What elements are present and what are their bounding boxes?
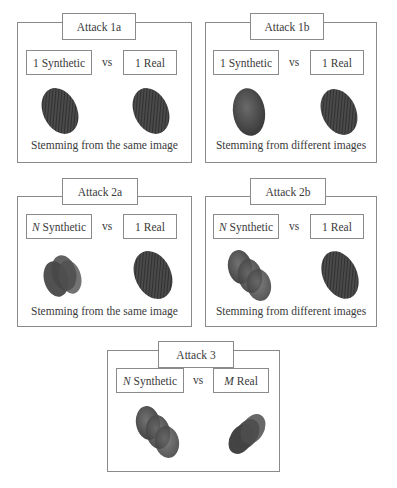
panel-attack-2b: N Synthetic vs 1 Real Stemming from diff…: [205, 196, 377, 327]
synthetic-count: N: [123, 375, 131, 387]
synthetic-count: N: [219, 221, 227, 233]
panel-attack-3: N Synthetic vs M Real: [107, 350, 280, 472]
real-count: 1: [322, 57, 328, 69]
synthetic-text: Synthetic: [134, 375, 177, 387]
synthetic-label: N Synthetic: [26, 214, 92, 239]
vs-text: vs: [102, 220, 112, 232]
real-fingerprint-icon: [131, 247, 175, 303]
synthetic-count: 1: [33, 57, 39, 69]
real-label: 1 Real: [123, 50, 177, 75]
caption: Stemming from different images: [206, 305, 376, 317]
synthetic-text: Synthetic: [42, 57, 85, 69]
synthetic-label: 1 Synthetic: [213, 50, 279, 75]
caption: Stemming from different images: [206, 139, 376, 151]
real-count: 1: [322, 221, 328, 233]
synthetic-text: Synthetic: [230, 221, 273, 233]
panel-title-attack-1b: Attack 1b: [250, 13, 324, 40]
panel-title-attack-2a: Attack 2a: [62, 178, 138, 205]
real-count: 1: [135, 57, 141, 69]
synthetic-fingerprint-icon: [229, 85, 269, 139]
real-text: Real: [144, 221, 165, 233]
vs-text: vs: [289, 56, 299, 68]
real-count: M: [224, 375, 234, 387]
real-fingerprint-icon: [131, 85, 173, 139]
caption: Stemming from the same image: [18, 139, 191, 151]
real-text: Real: [331, 57, 352, 69]
real-text: Real: [144, 57, 165, 69]
real-label: 1 Real: [310, 50, 364, 75]
synthetic-count: 1: [220, 57, 226, 69]
panel-title-attack-1a: Attack 1a: [62, 13, 136, 40]
real-text: Real: [237, 375, 258, 387]
synthetic-label: N Synthetic: [213, 214, 279, 239]
panel-title-attack-2b: Attack 2b: [250, 178, 326, 205]
panel-title-attack-3: Attack 3: [158, 341, 234, 368]
vs-text: vs: [102, 56, 112, 68]
panel-attack-1a: 1 Synthetic vs 1 Real Stemming from the …: [17, 22, 192, 163]
panel-attack-2a: N Synthetic vs 1 Real Stemming from the …: [17, 196, 192, 327]
real-label: M Real: [213, 368, 269, 393]
synthetic-label: N Synthetic: [116, 368, 184, 393]
vs-text: vs: [193, 374, 203, 386]
vs-text: vs: [289, 220, 299, 232]
stacked-synthetic-fingerprints-icon: [226, 247, 276, 303]
real-fingerprint-icon: [318, 85, 360, 139]
panel-attack-1b: 1 Synthetic vs 1 Real Stemming from diff…: [205, 22, 377, 163]
synthetic-text: Synthetic: [43, 221, 86, 233]
caption: Stemming from the same image: [18, 305, 191, 317]
real-count: 1: [135, 221, 141, 233]
synthetic-fingerprint-icon: [40, 85, 82, 139]
synthetic-label: 1 Synthetic: [26, 50, 92, 75]
synthetic-text: Synthetic: [229, 57, 272, 69]
stacked-real-fingerprints-icon: [226, 409, 268, 459]
synthetic-count: N: [32, 221, 40, 233]
stacked-synthetic-fingerprints-icon: [134, 403, 184, 461]
real-label: 1 Real: [310, 214, 364, 239]
real-label: 1 Real: [123, 214, 177, 239]
real-text: Real: [331, 221, 352, 233]
stacked-synthetic-fingerprints-icon: [40, 249, 86, 301]
real-fingerprint-icon: [318, 247, 362, 303]
